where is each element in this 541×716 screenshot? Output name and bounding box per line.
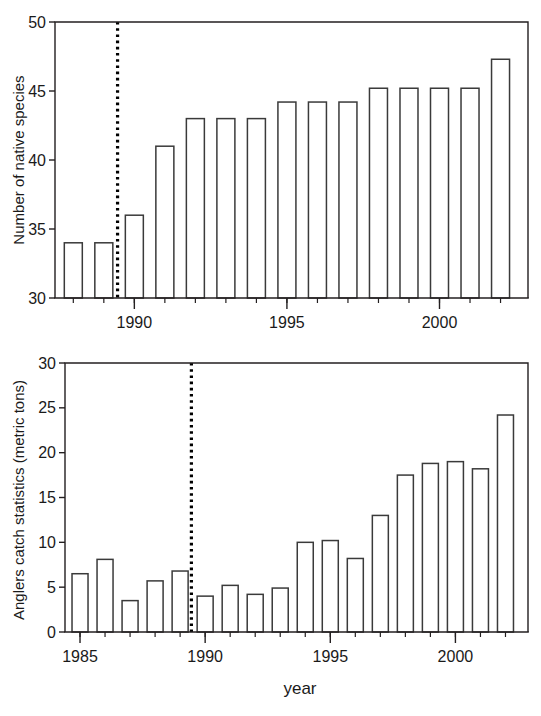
x-axis-title: year bbox=[283, 679, 316, 698]
bar bbox=[347, 558, 363, 632]
y-tick-label: 20 bbox=[38, 444, 56, 461]
bar bbox=[72, 574, 88, 632]
bar bbox=[369, 88, 387, 298]
bar bbox=[339, 102, 357, 298]
bar bbox=[197, 596, 213, 632]
bar bbox=[372, 515, 388, 632]
bar bbox=[497, 415, 513, 632]
bar bbox=[247, 119, 265, 298]
y-tick-label: 10 bbox=[38, 534, 56, 551]
bar bbox=[492, 59, 510, 298]
bar bbox=[447, 462, 463, 632]
bar-series-native-species bbox=[64, 59, 509, 298]
bar bbox=[278, 102, 296, 298]
y-tick-label: 40 bbox=[28, 152, 46, 169]
chart-native-species: 3035404550199019952000 Number of native … bbox=[10, 14, 528, 332]
bar bbox=[297, 542, 313, 632]
bar bbox=[472, 469, 488, 632]
x-tick-label: 1990 bbox=[117, 314, 153, 331]
x-tick-label: 2000 bbox=[438, 648, 474, 665]
bar bbox=[247, 594, 263, 632]
y-tick-label: 50 bbox=[28, 14, 46, 31]
y-tick-label: 35 bbox=[28, 221, 46, 238]
bar bbox=[125, 215, 143, 298]
bar bbox=[397, 475, 413, 632]
bar bbox=[272, 588, 288, 632]
y-tick-label: 30 bbox=[28, 290, 46, 307]
x-tick-label: 1995 bbox=[269, 314, 305, 331]
y-tick-label: 25 bbox=[38, 399, 56, 416]
bar bbox=[172, 571, 188, 632]
bar bbox=[222, 585, 238, 632]
bar bbox=[422, 463, 438, 632]
y-tick-label: 45 bbox=[28, 83, 46, 100]
axis-tick-labels-top: 3035404550199019952000 bbox=[28, 14, 457, 332]
bar bbox=[400, 88, 418, 298]
figure-svg: 3035404550199019952000 Number of native … bbox=[0, 0, 541, 716]
bar bbox=[322, 541, 338, 632]
bar bbox=[431, 88, 449, 298]
figure-panel: 3035404550199019952000 Number of native … bbox=[0, 0, 541, 716]
chart-anglers-catch: 0510152025301985199019952000 Anglers cat… bbox=[10, 355, 528, 699]
bar bbox=[217, 119, 235, 298]
bar bbox=[147, 581, 163, 632]
y-tick-label: 5 bbox=[47, 579, 56, 596]
bar bbox=[64, 243, 82, 298]
y-tick-label: 30 bbox=[38, 355, 56, 372]
y-axis-title-top: Number of native species bbox=[10, 75, 27, 244]
bar bbox=[186, 119, 204, 298]
bar bbox=[122, 601, 138, 632]
x-tick-label: 2000 bbox=[422, 314, 458, 331]
bar bbox=[95, 243, 113, 298]
y-axis-title-bottom: Anglers catch statistics (metric tons) bbox=[10, 380, 27, 620]
x-tick-label: 1985 bbox=[62, 648, 98, 665]
bar bbox=[156, 146, 174, 298]
y-tick-label: 0 bbox=[47, 624, 56, 641]
x-tick-label: 1990 bbox=[187, 648, 223, 665]
x-tick-label: 1995 bbox=[312, 648, 348, 665]
bar bbox=[97, 559, 113, 632]
bar-series-anglers-catch bbox=[72, 415, 513, 632]
y-tick-label: 15 bbox=[38, 489, 56, 506]
bar bbox=[461, 88, 479, 298]
bar bbox=[308, 102, 326, 298]
